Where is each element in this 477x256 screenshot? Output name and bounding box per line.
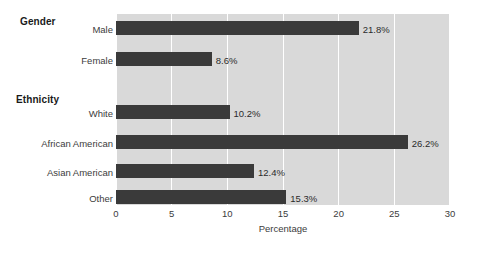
category-label-asian-american: Asian American <box>3 167 113 178</box>
bar-male <box>116 21 359 35</box>
category-label-female: Female <box>3 55 113 66</box>
x-tick-20: 20 <box>324 208 354 219</box>
category-label-african-american: African American <box>3 138 113 149</box>
x-tick-0: 0 <box>101 208 131 219</box>
category-label-other: Other <box>3 193 113 204</box>
bar-asian-american <box>116 164 254 178</box>
x-tick-15: 15 <box>268 208 298 219</box>
category-label-white: White <box>3 108 113 119</box>
bar-other <box>116 190 286 204</box>
bar-white <box>116 105 230 119</box>
value-label-asian-american: 12.4% <box>258 167 285 178</box>
gridline-25 <box>394 14 395 205</box>
gridline-20 <box>338 14 339 205</box>
value-label-african-american: 26.2% <box>412 138 439 149</box>
x-tick-30: 30 <box>435 208 465 219</box>
bar-african-american <box>116 135 408 149</box>
gridline-30 <box>449 14 450 205</box>
x-tick-5: 5 <box>157 208 187 219</box>
x-tick-10: 10 <box>212 208 242 219</box>
x-axis-title: Percentage <box>116 223 450 234</box>
group-header-ethnicity: Ethnicity <box>16 94 59 105</box>
value-label-white: 10.2% <box>234 108 261 119</box>
category-label-male: Male <box>3 24 113 35</box>
value-label-female: 8.6% <box>216 55 238 66</box>
x-tick-25: 25 <box>379 208 409 219</box>
value-label-male: 21.8% <box>363 24 390 35</box>
value-label-other: 15.3% <box>290 193 317 204</box>
bar-female <box>116 52 212 66</box>
bar-chart: Gender Ethnicity Male Female White Afric… <box>0 0 477 256</box>
